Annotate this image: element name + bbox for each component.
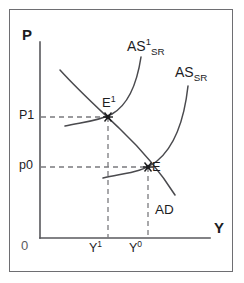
equilibrium-label-e0: E bbox=[152, 160, 161, 173]
plot-canvas bbox=[0, 0, 244, 283]
price-tick-p1: P1 bbox=[19, 109, 34, 122]
equilibrium-label-e1: E1 bbox=[102, 96, 116, 109]
price-tick-p0: p0 bbox=[19, 159, 33, 172]
economics-diagram: P Y 0 P1 p0 Y1 Y0 AS1SR ASSR AD E1 E bbox=[0, 0, 244, 283]
curve-label-as-sr-1: AS1SR bbox=[127, 39, 165, 53]
output-tick-y1-sup: 1 bbox=[97, 239, 102, 249]
output-tick-y1: Y1 bbox=[89, 242, 102, 255]
curve-ad bbox=[60, 70, 175, 195]
curve-label-as-sr: ASSR bbox=[175, 65, 207, 79]
curve-label-as-sr-1-base: AS bbox=[127, 38, 146, 54]
output-tick-y0: Y0 bbox=[129, 242, 142, 255]
equilibrium-label-e1-base: E bbox=[102, 95, 111, 110]
curve-label-as-sr-sub: SR bbox=[194, 72, 208, 83]
equilibrium-label-e1-sup: 1 bbox=[111, 94, 116, 104]
curve-as-sr-1 bbox=[65, 57, 141, 126]
curve-label-ad: AD bbox=[155, 203, 174, 217]
x-axis-label: Y bbox=[214, 220, 224, 235]
y-axis-label: P bbox=[22, 27, 32, 42]
curve-label-as-sr-base: AS bbox=[175, 64, 194, 80]
curve-label-as-sr-1-sub: SR bbox=[151, 46, 165, 57]
output-tick-y0-sup: 0 bbox=[137, 239, 142, 249]
origin-label: 0 bbox=[21, 239, 28, 252]
